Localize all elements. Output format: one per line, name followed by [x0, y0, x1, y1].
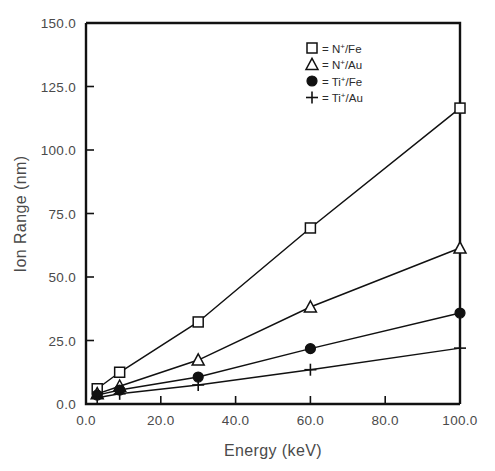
y-tick-label: 125.0 [41, 80, 76, 95]
x-tick-label: 0.0 [76, 413, 96, 428]
legend-marker [307, 76, 317, 86]
legend-marker [307, 43, 317, 53]
y-tick-label: 75.0 [49, 207, 76, 222]
data-point [193, 317, 203, 327]
data-point [115, 367, 125, 377]
data-point [455, 308, 465, 318]
x-tick-label: 80.0 [371, 413, 398, 428]
y-tick-label: 25.0 [49, 334, 76, 349]
figure-container: 0.020.040.060.080.0100.00.025.050.075.01… [0, 0, 495, 471]
x-tick-label: 100.0 [442, 413, 477, 428]
data-point [305, 344, 315, 354]
y-tick-label: 100.0 [41, 143, 76, 158]
y-tick-label: 0.0 [56, 397, 76, 412]
data-point [455, 103, 465, 113]
x-tick-label: 60.0 [297, 413, 324, 428]
x-axis-title: Energy (keV) [224, 442, 322, 459]
x-tick-label: 40.0 [222, 413, 249, 428]
legend-item-n--fe: = N+/Fe [307, 42, 362, 55]
x-tick-label: 20.0 [147, 413, 174, 428]
y-tick-label: 150.0 [41, 16, 76, 31]
data-point [305, 223, 315, 233]
y-axis-title: Ion Range (nm) [12, 156, 29, 273]
y-tick-label: 50.0 [49, 270, 76, 285]
ion-range-vs-energy-chart: 0.020.040.060.080.0100.00.025.050.075.01… [0, 0, 495, 471]
